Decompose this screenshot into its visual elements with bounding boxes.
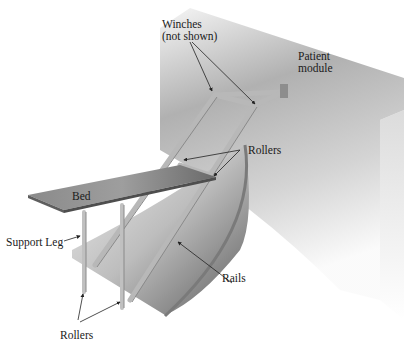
label-support-leg: Support Leg (6, 236, 63, 248)
label-rails: Rails (222, 272, 246, 284)
label-patient-module-line1: Patient (298, 50, 333, 62)
label-rollers-lower: Rollers (60, 329, 93, 341)
label-bed: Bed (72, 190, 91, 202)
winch-plate (280, 84, 288, 98)
illustration (0, 0, 404, 348)
label-patient-module: Patient module (298, 50, 333, 74)
label-patient-module-line2: module (298, 62, 333, 74)
label-rollers-upper: Rollers (248, 144, 281, 156)
diagram-canvas: Winches (not shown) Patient module Rolle… (0, 0, 404, 348)
label-winches: Winches (not shown) (162, 18, 217, 42)
label-winches-line2: (not shown) (162, 30, 217, 42)
label-winches-line1: Winches (162, 18, 217, 30)
